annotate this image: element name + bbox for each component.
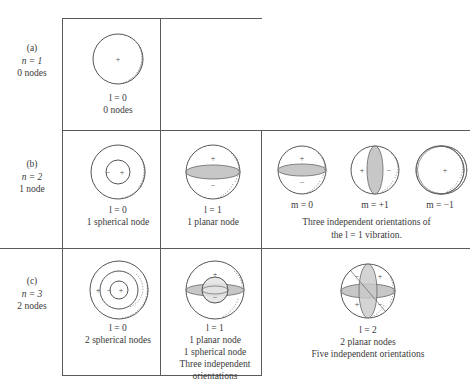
orbital-b-m0-art: + −	[276, 144, 328, 196]
row-a-nodes-label: 0 nodes	[2, 67, 62, 80]
orbital-b-mp1-art: + −	[349, 144, 401, 196]
c-l2-caption-2: Five independent orientations	[286, 348, 450, 360]
svg-text:+: +	[211, 154, 216, 163]
b-l0-caption-1: 1 spherical node	[72, 216, 164, 228]
svg-text:+: +	[213, 270, 218, 279]
svg-text:+: +	[119, 286, 124, 295]
caption-b-l1: l = 1 1 planar node	[167, 204, 259, 228]
row-label-a: (a) n = 1 0 nodes	[2, 42, 62, 80]
caption-b-orientations: Three independent orientations of the l …	[264, 216, 469, 241]
caption-c-l2: l = 2 2 planar nodes Five independent or…	[286, 324, 450, 360]
row-b-nodes-label: 1 node	[2, 183, 62, 196]
row-c-n-label: n = 3	[2, 288, 62, 301]
svg-text:−: −	[387, 166, 392, 175]
c-l0-l-label: l = 0	[66, 322, 170, 334]
a-l0-l-label: l = 0	[78, 92, 158, 104]
divider-vertical-left	[62, 18, 63, 376]
b-l1-caption-1: 1 planar node	[167, 216, 259, 228]
svg-text:−: −	[106, 168, 111, 177]
svg-text:+: +	[116, 55, 121, 64]
orbital-c-l1-art: + −	[184, 259, 246, 321]
label-b-m0: m = 0	[276, 200, 328, 210]
orbital-c-l2-art: − + + −	[338, 261, 398, 321]
row-b-n-label: n = 2	[2, 171, 62, 184]
orbital-a-l0-art: +	[91, 32, 145, 86]
svg-text:−: −	[211, 181, 216, 190]
svg-text:+: +	[96, 286, 101, 295]
divider-row-b-c	[0, 248, 470, 249]
row-a-n-label: n = 1	[2, 55, 62, 68]
svg-text:+: +	[355, 300, 360, 309]
a-l0-caption-1: 0 nodes	[78, 104, 158, 116]
row-a-tag: (a)	[2, 42, 62, 55]
b-l1-l-label: l = 1	[167, 204, 259, 216]
b-orientations-line-1: Three independent orientations of	[264, 216, 469, 229]
row-c-tag: (c)	[2, 275, 62, 288]
svg-text:−: −	[355, 272, 360, 281]
svg-text:−: −	[107, 286, 112, 295]
svg-text:+: +	[300, 154, 305, 163]
row-b-tag: (b)	[2, 158, 62, 171]
divider-row-a-b-right	[261, 130, 470, 131]
svg-text:−: −	[378, 300, 383, 309]
svg-text:+: +	[360, 166, 365, 175]
orbital-b-l0-art: − +	[88, 142, 148, 202]
row-label-c: (c) n = 3 2 nodes	[2, 275, 62, 313]
svg-text:−: −	[213, 293, 218, 302]
svg-text:+: +	[120, 168, 125, 177]
c-l1-l-label: l = 1	[168, 322, 262, 334]
c-l1-caption-4: orientations	[168, 370, 262, 382]
b-orientations-line-2: the l = 1 vibration.	[264, 229, 469, 242]
divider-row-a-b	[62, 130, 262, 131]
svg-text:+: +	[378, 272, 383, 281]
orbital-c-l0-art: + − +	[88, 259, 150, 321]
c-l1-caption-2: 1 spherical node	[168, 346, 262, 358]
orbital-b-mm1-art: +	[414, 144, 466, 196]
c-l1-caption-3: Three independent	[168, 358, 262, 370]
caption-a-l0: l = 0 0 nodes	[78, 92, 158, 116]
c-l1-caption-1: 1 planar node	[168, 334, 262, 346]
c-l2-l-label: l = 2	[286, 324, 450, 336]
row-label-b: (b) n = 2 1 node	[2, 158, 62, 196]
orbital-b-l1-art: + −	[183, 142, 243, 202]
svg-text:+: +	[443, 166, 448, 175]
c-l2-caption-1: 2 planar nodes	[286, 336, 450, 348]
svg-text:−: −	[300, 178, 305, 187]
caption-c-l0: l = 0 2 spherical nodes	[66, 322, 170, 346]
label-b-mp1: m = +1	[349, 200, 401, 210]
orbital-node-figure: (a) n = 1 0 nodes + l = 0 0 nodes (b) n …	[0, 0, 470, 387]
c-l0-caption-1: 2 spherical nodes	[66, 334, 170, 346]
caption-b-l0: l = 0 1 spherical node	[72, 204, 164, 228]
divider-horizontal-top	[62, 18, 262, 19]
row-c-nodes-label: 2 nodes	[2, 300, 62, 313]
b-l0-l-label: l = 0	[72, 204, 164, 216]
label-b-mm1: m = −1	[414, 200, 466, 210]
caption-c-l1: l = 1 1 planar node 1 spherical node Thr…	[168, 322, 262, 382]
